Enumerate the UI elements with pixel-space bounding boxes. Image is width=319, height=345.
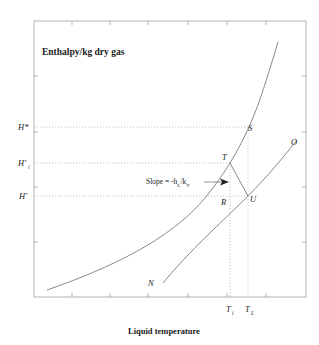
point-t: T [222,152,228,162]
slope-label: Slope = -hL/kY [146,177,190,188]
x-axis-label: Liquid temperature [128,326,200,336]
tick-marks [34,21,306,297]
label-h-i: H' [17,158,26,168]
label-h-prime: H' [18,191,27,201]
tie-line [230,163,248,196]
equilibrium-curve [47,42,278,290]
diagram-canvas: Enthalpy/kg dry gas H* H' i H' T i T L S… [0,0,319,345]
point-r: R [220,197,227,207]
point-o: O [291,137,297,147]
point-n: N [147,278,155,288]
label-t-i-sub: i [232,310,234,316]
guide-lines [34,127,248,297]
point-s: S [248,123,253,133]
label-h-i-sub: i [28,164,30,170]
plot-frame [34,21,306,297]
point-u: U [250,194,257,204]
diagram-title: Enthalpy/kg dry gas [42,47,125,57]
label-h-star: H* [17,122,29,132]
label-t-l-sub: L [250,310,254,316]
